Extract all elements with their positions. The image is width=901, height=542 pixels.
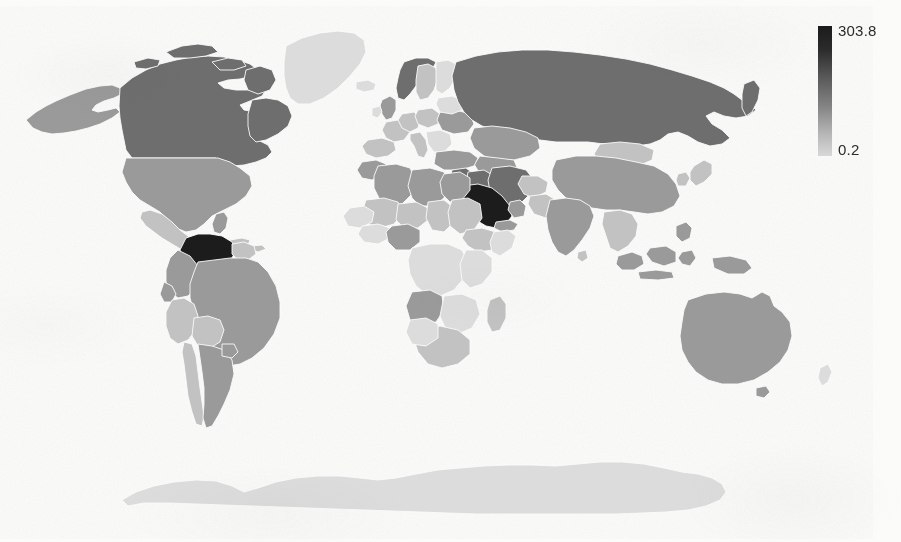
- region-antarctica[interactable]: [122, 462, 726, 514]
- region-east-africa[interactable]: [460, 250, 492, 288]
- region-turkey[interactable]: [434, 150, 478, 170]
- colorbar-min-label: 0.2: [838, 141, 859, 158]
- region-japan[interactable]: [690, 160, 712, 186]
- region-india[interactable]: [546, 198, 594, 256]
- region-madagascar[interactable]: [487, 296, 506, 332]
- region-alaska[interactable]: [26, 85, 122, 134]
- region-indonesia-sumatra[interactable]: [616, 252, 644, 270]
- region-tasmania[interactable]: [756, 386, 770, 398]
- region-ireland[interactable]: [372, 106, 382, 118]
- region-australia[interactable]: [680, 292, 792, 384]
- region-guinea-coast[interactable]: [358, 224, 390, 244]
- region-indonesia-borneo[interactable]: [646, 246, 676, 266]
- region-iceland[interactable]: [356, 80, 376, 92]
- region-sri-lanka[interactable]: [577, 250, 588, 262]
- choropleth-figure: 303.8 0.2: [0, 0, 901, 542]
- region-canada-baffin[interactable]: [244, 66, 276, 94]
- colorbar-max-label: 303.8: [838, 22, 877, 39]
- region-indonesia-sulawesi[interactable]: [678, 250, 696, 266]
- region-indonesia-java[interactable]: [638, 270, 674, 280]
- region-nigeria[interactable]: [386, 224, 420, 250]
- region-somalia[interactable]: [490, 230, 516, 256]
- region-guyanas[interactable]: [232, 242, 256, 260]
- region-niger[interactable]: [396, 202, 428, 228]
- region-greenland[interactable]: [284, 31, 366, 104]
- region-italy[interactable]: [410, 132, 428, 158]
- region-papua-new-guinea[interactable]: [712, 256, 752, 274]
- region-korea[interactable]: [676, 172, 690, 186]
- region-united-kingdom[interactable]: [380, 96, 396, 120]
- region-balkans[interactable]: [426, 130, 452, 152]
- region-sweden[interactable]: [416, 64, 438, 100]
- colorbar-legend: 303.8 0.2: [818, 22, 898, 170]
- region-philippines[interactable]: [676, 222, 692, 242]
- region-drc[interactable]: [408, 244, 468, 296]
- region-spain[interactable]: [362, 138, 396, 158]
- region-united-states[interactable]: [122, 158, 252, 232]
- region-southeast-asia[interactable]: [602, 210, 638, 252]
- region-kamchatka[interactable]: [742, 80, 760, 116]
- region-canada-east[interactable]: [248, 98, 292, 142]
- colorbar-gradient-bar: [818, 26, 832, 156]
- region-new-zealand[interactable]: [818, 364, 832, 386]
- world-map[interactable]: [0, 0, 901, 542]
